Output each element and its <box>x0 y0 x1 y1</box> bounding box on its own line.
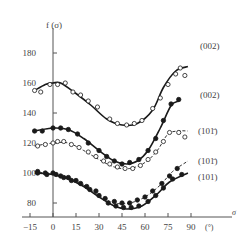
data-point <box>174 72 178 76</box>
data-point <box>114 204 118 208</box>
y-tick-label: 100 <box>23 168 37 178</box>
y-tick-label: 120 <box>23 138 37 148</box>
data-point <box>143 195 147 199</box>
series-labels: (002)(002)(101̄)(101̄)(101) <box>198 41 220 182</box>
data-point <box>161 186 165 190</box>
data-point <box>86 99 90 103</box>
series-label: (002) <box>200 90 220 100</box>
data-point <box>131 166 135 170</box>
data-point <box>177 97 181 101</box>
series-4 <box>35 171 188 210</box>
data-point <box>112 199 116 203</box>
series-label: (002) <box>200 41 220 51</box>
data-point <box>138 163 142 167</box>
data-point <box>137 157 141 161</box>
data-point <box>123 166 127 170</box>
data-point <box>69 142 73 146</box>
data-point <box>137 204 141 208</box>
data-point <box>177 130 181 134</box>
series-label: (101) <box>198 172 218 182</box>
data-point <box>178 66 182 70</box>
data-point <box>35 171 39 175</box>
data-point <box>167 130 171 134</box>
series-line <box>35 161 188 204</box>
x-axis-unit: (°) <box>205 223 214 232</box>
data-point <box>78 181 82 185</box>
series-2 <box>35 130 188 170</box>
data-point <box>154 193 158 197</box>
line-chart: −15015304560759080100120140160180f (σ)σ(… <box>0 0 240 245</box>
y-tick-label: 160 <box>23 78 37 88</box>
data-point <box>115 121 119 125</box>
x-tick-label: 45 <box>118 222 128 232</box>
data-point <box>33 88 37 92</box>
data-point <box>154 136 158 140</box>
data-point <box>71 90 75 94</box>
y-tick-label: 80 <box>27 198 37 208</box>
data-point <box>69 178 73 182</box>
data-point <box>140 118 144 122</box>
data-point <box>94 189 98 193</box>
data-point <box>86 141 90 145</box>
x-tick-label: 0 <box>51 222 56 232</box>
x-tick-label: 60 <box>141 222 151 232</box>
series-3 <box>35 161 188 205</box>
data-point <box>39 90 43 94</box>
data-point <box>146 148 150 152</box>
data-point <box>160 181 164 185</box>
data-point <box>97 193 101 197</box>
series-label: (101̄) <box>198 126 218 136</box>
data-point <box>150 189 154 193</box>
data-point <box>40 129 44 133</box>
data-point <box>161 118 165 122</box>
data-point <box>62 139 66 143</box>
data-point <box>56 82 60 86</box>
data-point <box>183 73 187 77</box>
data-point <box>180 172 184 176</box>
data-point <box>88 187 92 191</box>
data-point <box>154 150 158 154</box>
series-group <box>32 66 188 210</box>
data-point <box>161 139 165 143</box>
data-point <box>48 82 52 86</box>
data-point <box>94 154 98 158</box>
data-point <box>66 127 70 131</box>
series-1 <box>32 97 181 166</box>
data-point <box>36 144 40 148</box>
chart-container: −15015304560759080100120140160180f (σ)σ(… <box>0 0 240 245</box>
series-line <box>35 173 188 209</box>
data-point <box>51 141 55 145</box>
data-point <box>135 198 139 202</box>
x-tick-label: −15 <box>23 222 38 232</box>
data-point <box>125 123 129 127</box>
data-point <box>56 139 60 143</box>
data-point <box>166 82 170 86</box>
data-point <box>86 150 90 154</box>
data-point <box>115 165 119 169</box>
data-point <box>97 148 101 152</box>
data-point <box>77 145 81 149</box>
data-point <box>75 132 79 136</box>
y-tick-label: 140 <box>23 108 37 118</box>
y-tick-label: 180 <box>23 48 37 58</box>
data-point <box>108 117 112 121</box>
data-point <box>170 177 174 181</box>
data-point <box>58 126 62 130</box>
data-point <box>51 126 55 130</box>
data-point <box>151 106 155 110</box>
data-point <box>175 166 179 170</box>
x-axis-title: σ <box>232 208 237 217</box>
x-tick-label: 75 <box>164 222 174 232</box>
data-point <box>63 81 67 85</box>
x-tick-label: 15 <box>72 222 82 232</box>
data-point <box>102 159 106 163</box>
data-point <box>146 199 150 203</box>
data-point <box>108 162 112 166</box>
data-point <box>43 142 47 146</box>
data-point <box>127 201 131 205</box>
data-point <box>106 201 110 205</box>
data-point <box>45 172 49 176</box>
data-point <box>79 93 83 97</box>
data-point <box>112 159 116 163</box>
data-point <box>127 160 131 164</box>
